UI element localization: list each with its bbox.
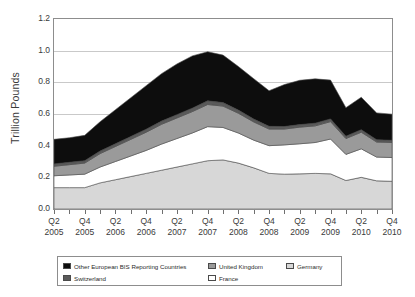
x-tick-year: 2007	[198, 227, 217, 238]
x-tick-quarter: Q4	[137, 216, 156, 227]
x-tick-label: Q42005	[75, 216, 94, 238]
x-tick-mark	[192, 210, 193, 214]
x-tick-mark	[300, 210, 301, 214]
x-tick-mark	[331, 210, 332, 214]
legend-item[interactable]: United Kingdom	[208, 263, 286, 270]
x-tick-quarter: Q2	[229, 216, 248, 227]
x-tick-mark	[146, 210, 147, 214]
y-tick-label: 1.2	[4, 14, 50, 23]
x-tick-label: Q22007	[167, 216, 186, 238]
y-tick-label: 0.4	[4, 141, 50, 150]
x-tick-quarter: Q2	[352, 216, 371, 227]
y-tick-label: 0.6	[4, 109, 50, 118]
x-tick-mark	[254, 210, 255, 214]
x-tick-year: 2007	[167, 227, 186, 238]
x-tick-year: 2005	[75, 227, 94, 238]
legend-item[interactable]: Other European BIS Reporting Countries	[63, 263, 208, 270]
x-tick-mark	[69, 210, 70, 214]
x-tick-label: Q22006	[106, 216, 125, 238]
x-tick-year: 2008	[260, 227, 279, 238]
x-tick-quarter: Q2	[45, 216, 64, 227]
legend-swatch	[208, 275, 216, 281]
legend-item[interactable]: Switzerland	[63, 275, 208, 282]
x-tick-quarter: Q2	[106, 216, 125, 227]
legend-item[interactable]: France	[208, 275, 286, 282]
legend-label: Other European BIS Reporting Countries	[74, 263, 186, 270]
y-tick-label: 0.8	[4, 77, 50, 86]
x-tick-year: 2006	[137, 227, 156, 238]
x-tick-label: Q22010	[352, 216, 371, 238]
x-tick-label: Q42010	[383, 216, 402, 238]
x-tick-year: 2006	[106, 227, 125, 238]
legend-label: United Kingdom	[219, 263, 263, 270]
x-tick-mark	[162, 210, 163, 214]
y-tick-label: 1.0	[4, 46, 50, 55]
legend-item[interactable]: Germany	[286, 263, 322, 270]
x-tick-mark	[315, 210, 316, 214]
legend-label: Switzerland	[74, 275, 106, 282]
legend-swatch	[63, 275, 71, 281]
x-tick-mark	[238, 210, 239, 214]
plot-area	[53, 18, 393, 210]
x-tick-mark	[346, 210, 347, 214]
x-tick-label: Q22008	[229, 216, 248, 238]
x-tick-label: Q22009	[290, 216, 309, 238]
y-tick-label: 0.0	[4, 204, 50, 213]
x-tick-quarter: Q4	[383, 216, 402, 227]
x-tick-label: Q22005	[45, 216, 64, 238]
legend-row: SwitzerlandFrance	[63, 272, 336, 284]
x-tick-year: 2009	[290, 227, 309, 238]
x-tick-year: 2010	[352, 227, 371, 238]
y-axis-ticks: 1.21.00.80.60.40.20.0	[0, 0, 50, 215]
x-tick-year: 2010	[383, 227, 402, 238]
x-tick-mark	[85, 210, 86, 214]
x-tick-quarter: Q4	[260, 216, 279, 227]
x-tick-mark	[392, 210, 393, 214]
x-tick-mark	[131, 210, 132, 214]
legend-label: Germany	[297, 263, 322, 270]
x-axis: Q22005Q42005Q22006Q42006Q22007Q42007Q220…	[53, 210, 393, 246]
x-tick-quarter: Q4	[321, 216, 340, 227]
legend-swatch	[208, 263, 216, 269]
x-tick-label: Q42009	[321, 216, 340, 238]
x-tick-mark	[361, 210, 362, 214]
legend-swatch	[286, 263, 294, 269]
stacked-area-chart: Trillion Pounds 1.21.00.80.60.40.20.0 Q2…	[0, 0, 415, 297]
x-tick-label: Q42006	[137, 216, 156, 238]
x-tick-mark	[115, 210, 116, 214]
x-tick-mark	[100, 210, 101, 214]
x-tick-mark	[269, 210, 270, 214]
x-tick-quarter: Q2	[167, 216, 186, 227]
legend-row: Other European BIS Reporting CountriesUn…	[63, 260, 336, 272]
x-tick-year: 2009	[321, 227, 340, 238]
x-tick-year: 2008	[229, 227, 248, 238]
x-tick-mark	[377, 210, 378, 214]
x-tick-mark	[54, 210, 55, 214]
x-tick-label: Q42007	[198, 216, 217, 238]
legend-swatch	[63, 263, 71, 269]
legend-label: France	[219, 275, 238, 282]
x-tick-year: 2005	[45, 227, 64, 238]
x-tick-mark	[284, 210, 285, 214]
x-tick-quarter: Q4	[198, 216, 217, 227]
x-tick-label: Q42008	[260, 216, 279, 238]
y-tick-label: 0.2	[4, 172, 50, 181]
x-tick-quarter: Q4	[75, 216, 94, 227]
chart-legend: Other European BIS Reporting CountriesUn…	[57, 256, 342, 286]
area-series-svg	[54, 19, 392, 209]
x-tick-mark	[223, 210, 224, 214]
x-tick-mark	[208, 210, 209, 214]
x-tick-mark	[177, 210, 178, 214]
x-tick-quarter: Q2	[290, 216, 309, 227]
